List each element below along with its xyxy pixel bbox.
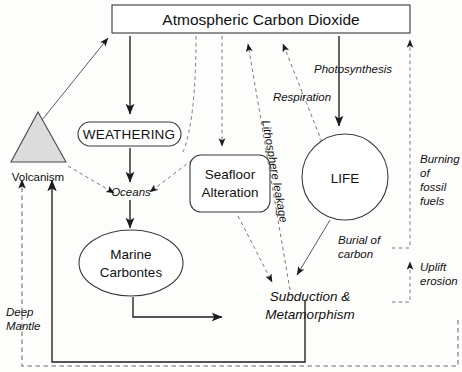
edge-right-to-oceans-dashed <box>150 160 192 192</box>
node-weathering-label: WEATHERING <box>83 127 176 142</box>
edge-label-respiration: Respiration <box>273 91 331 103</box>
edge-burial-of-carbon <box>297 220 330 275</box>
edge-label-deep-mantle-line2: Mantle <box>6 320 41 332</box>
edge-label-burial-line1: Burial of <box>338 234 382 246</box>
node-seafloor-label-line1: Seafloor <box>205 167 256 182</box>
node-seafloor-alteration-box <box>190 155 270 212</box>
node-volcanism-label: Volcanism <box>12 171 64 183</box>
edge-label-uplift-line1: Uplift <box>420 261 447 273</box>
edge-label-burial-line2: carbon <box>338 248 373 260</box>
edge-label-deep-mantle-line1: Deep <box>6 306 34 318</box>
edge-volcanism-to-oceans <box>68 166 114 193</box>
carbon-cycle-diagram: Atmospheric Carbon Dioxide WEATHERING Vo… <box>0 0 462 372</box>
node-marine-label-line1: Marine <box>110 247 151 262</box>
node-subduction-label-line1: Subduction & <box>270 289 350 304</box>
node-volcanism-triangle <box>11 112 66 162</box>
node-subduction-label-line2: Metamorphism <box>265 307 354 322</box>
node-marine-label-line2: Carbontes <box>100 265 163 280</box>
edge-volcanism-to-atmosphere <box>42 38 108 120</box>
node-oceans-label: Oceans <box>111 186 151 198</box>
node-life-label: LIFE <box>331 171 360 186</box>
edge-uplift-erosion-dashed <box>392 262 410 302</box>
node-atmosphere-label: Atmospheric Carbon Dioxide <box>162 11 359 28</box>
edge-label-uplift-line2: erosion <box>420 275 458 287</box>
node-marine-carbonates-ellipse <box>79 230 183 296</box>
edge-label-burning-line2: of <box>420 167 431 179</box>
edge-label-burning-line4: fuels <box>420 195 445 207</box>
edge-seafloor-to-subduction-dashed <box>238 216 272 282</box>
edge-atmosphere-to-oceans-curve-dashed <box>183 36 196 152</box>
diagram-canvas: Atmospheric Carbon Dioxide WEATHERING Vo… <box>0 0 462 372</box>
edge-label-burning-line3: fossil <box>420 181 447 193</box>
edge-label-burning-line1: Burning <box>420 153 460 165</box>
node-seafloor-label-line2: Alteration <box>201 185 258 200</box>
edge-marine-carbonates-to-subduction <box>133 297 222 317</box>
edge-label-photosynthesis: Photosynthesis <box>314 63 392 75</box>
